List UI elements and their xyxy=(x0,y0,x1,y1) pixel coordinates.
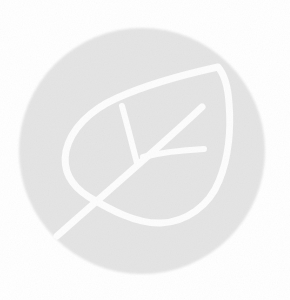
leaf-logo-mark xyxy=(0,0,290,300)
leaf-logo-canvas xyxy=(0,0,290,300)
grain-overlay xyxy=(0,0,290,300)
